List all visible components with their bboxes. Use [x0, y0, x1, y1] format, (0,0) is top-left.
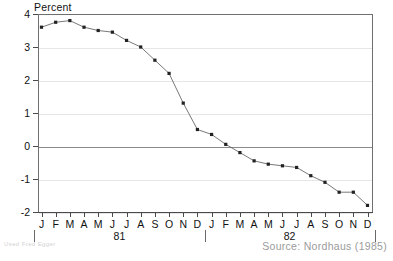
source-note: Source: Nordhaus (1985): [262, 240, 387, 252]
x-tick-mark: [212, 212, 213, 217]
y-tick-label: 3: [2, 42, 30, 52]
y-tick-label: 1: [2, 108, 30, 118]
x-tick-mark: [268, 212, 269, 217]
y-tick-label: -1: [2, 174, 30, 184]
y-tick-mark: [33, 47, 38, 48]
gridline: [39, 213, 372, 214]
gridline: [39, 81, 372, 82]
y-tick-mark: [33, 14, 38, 15]
x-tick-mark: [353, 212, 354, 217]
y-tick-label: 4: [2, 9, 30, 19]
gridline: [39, 48, 372, 49]
x-tick-mark: [197, 212, 198, 217]
chart-container: Percent 43210-1-2 JFMAMJJASONDJFMAMJJASO…: [0, 0, 393, 261]
x-tick-mark: [84, 212, 85, 217]
x-tick-mark: [127, 212, 128, 217]
x-tick-mark: [98, 212, 99, 217]
x-tick-mark: [56, 212, 57, 217]
x-tick-mark: [254, 212, 255, 217]
x-tick-label: D: [360, 218, 376, 230]
y-axis-title: Percent: [34, 1, 72, 13]
gridline: [39, 114, 372, 115]
x-tick-mark: [42, 212, 43, 217]
plot-area: [38, 14, 373, 212]
x-tick-mark: [311, 212, 312, 217]
x-tick-mark: [297, 212, 298, 217]
x-tick-mark: [368, 212, 369, 217]
y-tick-label: 2: [2, 75, 30, 85]
zero-line: [39, 147, 372, 148]
x-tick-mark: [240, 212, 241, 217]
x-tick-mark: [169, 212, 170, 217]
x-tick-mark: [226, 212, 227, 217]
x-tick-mark: [183, 212, 184, 217]
x-tick-mark: [141, 212, 142, 217]
y-tick-label: -2: [2, 207, 30, 217]
x-tick-mark: [282, 212, 283, 217]
x-tick-mark: [112, 212, 113, 217]
x-tick-mark: [70, 212, 71, 217]
y-tick-mark: [33, 80, 38, 81]
y-tick-label: 0: [2, 141, 30, 151]
y-tick-mark: [33, 113, 38, 114]
year-label: 81: [99, 230, 139, 242]
year-divider: [205, 230, 206, 242]
x-tick-mark: [339, 212, 340, 217]
watermark-text: Used Fred Egger: [4, 241, 56, 247]
y-tick-mark: [33, 146, 38, 147]
gridline: [39, 180, 372, 181]
x-tick-mark: [325, 212, 326, 217]
x-axis-line: [38, 212, 373, 213]
y-tick-mark: [33, 179, 38, 180]
x-tick-mark: [155, 212, 156, 217]
